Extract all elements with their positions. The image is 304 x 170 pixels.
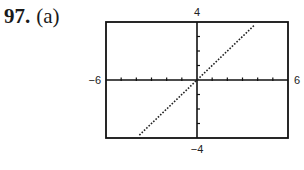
y-min-label: −4 — [191, 143, 204, 155]
x-max-label: 6 — [294, 74, 300, 86]
x-min-label: −6 — [88, 74, 101, 86]
axes — [106, 22, 288, 138]
graph: 4 −4 −6 6 — [0, 0, 304, 170]
y-max-label: 4 — [194, 6, 200, 18]
